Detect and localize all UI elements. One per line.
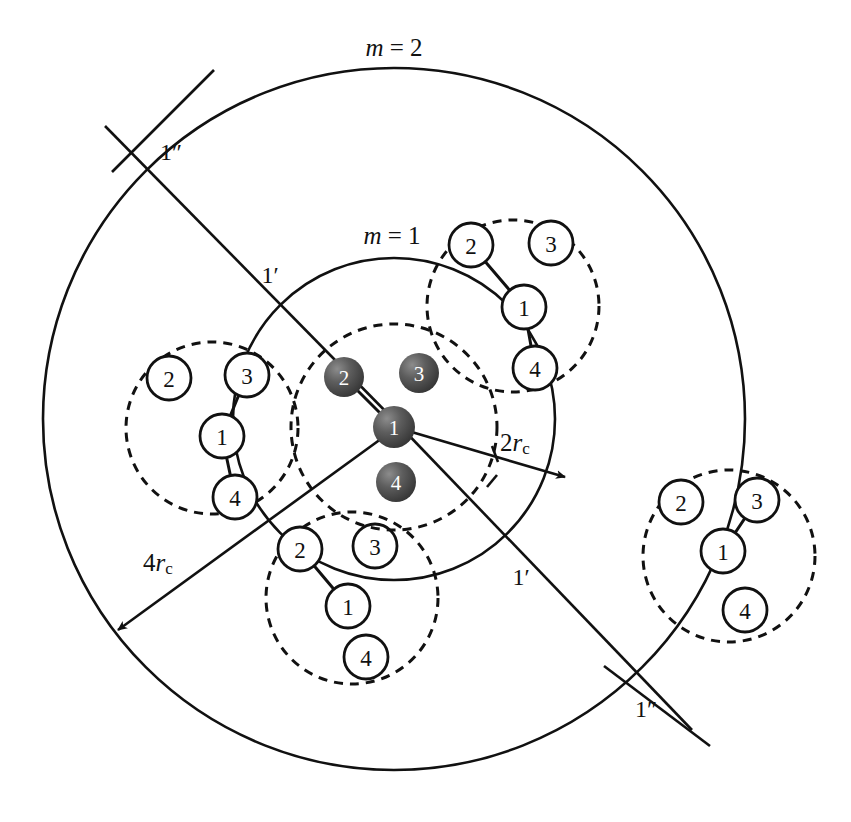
label-1-double-prime-topleft: 1″ <box>160 139 182 165</box>
radius-label-4rc: 4rc <box>143 549 173 578</box>
radius-arrow-2rc <box>398 428 565 477</box>
node-1: 1 <box>326 584 370 628</box>
node-label: 1 <box>389 416 400 440</box>
radius-label-2rc-sub: c <box>522 439 530 458</box>
radius-label-4rc-sub: c <box>165 559 173 578</box>
node-3: 3 <box>225 353 269 397</box>
node-2: 2 <box>324 357 364 397</box>
shell-label-m1: m = 1 <box>363 222 420 249</box>
node-1: 1 <box>502 285 546 329</box>
cluster-top-right: 2 3 1 4 <box>427 220 599 392</box>
radius-label-4rc-main: 4r <box>143 549 166 576</box>
node-label: 1 <box>717 540 729 565</box>
node-1: 1 <box>373 406 415 448</box>
node-label: 3 <box>369 535 381 560</box>
node-2: 2 <box>278 527 322 571</box>
cluster-bottom: 2 3 1 4 <box>266 512 438 684</box>
node-2: 2 <box>147 356 191 400</box>
node-label: 4 <box>360 646 372 671</box>
node-label: 3 <box>545 232 557 257</box>
node-1: 1 <box>200 414 244 458</box>
node-label: 2 <box>465 234 477 259</box>
node-4: 4 <box>344 635 388 679</box>
node-label: 3 <box>241 364 253 389</box>
radius-label-2rc-main: 2r <box>500 429 523 456</box>
node-label: 1 <box>216 425 228 450</box>
node-label: 4 <box>739 599 751 624</box>
node-4: 4 <box>513 346 557 390</box>
node-3: 3 <box>399 353 439 393</box>
node-label: 4 <box>529 357 541 382</box>
node-3: 3 <box>529 221 573 265</box>
node-label: 2 <box>294 538 306 563</box>
label-1-prime-lower: 1′ <box>512 564 529 590</box>
node-label: 3 <box>751 489 763 514</box>
ray-group <box>105 70 710 746</box>
node-label: 3 <box>414 362 425 386</box>
node-2: 2 <box>659 480 703 524</box>
node-label: 4 <box>391 471 402 495</box>
node-3: 3 <box>735 478 779 522</box>
diagram-root: 2 3 1 4 2 <box>0 0 851 822</box>
node-label: 2 <box>339 366 350 390</box>
radius-label-2rc: 2rc <box>500 429 530 458</box>
node-4: 4 <box>723 588 767 632</box>
node-1: 1 <box>701 529 745 573</box>
ray-crossing-bottom-right <box>604 666 710 746</box>
node-4: 4 <box>376 462 416 502</box>
node-label: 2 <box>675 491 687 516</box>
node-4: 4 <box>213 475 257 519</box>
tick-mark-cluster-edge <box>487 475 497 487</box>
cluster-left: 2 3 1 4 <box>126 342 298 519</box>
node-label: 1 <box>518 296 530 321</box>
label-1-prime-upper: 1′ <box>261 262 278 288</box>
shell-label-m2: m = 2 <box>365 34 422 61</box>
node-2: 2 <box>449 223 493 267</box>
label-1-double-prime-bottomright: 1″ <box>635 696 657 722</box>
node-label: 4 <box>229 486 241 511</box>
cluster-center: 2 3 4 1 <box>291 324 497 530</box>
cluster-right: 2 3 1 4 <box>643 470 815 642</box>
node-label: 2 <box>163 367 175 392</box>
node-label: 1 <box>342 595 354 620</box>
cluster-shell-diagram: 2 3 1 4 2 <box>0 0 851 822</box>
